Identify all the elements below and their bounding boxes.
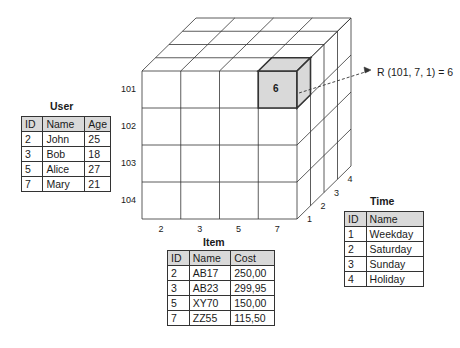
user-axis-label: 103	[121, 159, 136, 168]
table-row: 3Sunday	[345, 257, 424, 272]
table-cell: 21	[85, 177, 111, 192]
formula-label: R (101, 7, 1) = 6	[377, 66, 453, 78]
item-axis-label: 5	[236, 225, 241, 234]
table-row: 3AB23299,95	[168, 281, 275, 296]
user-axis-label: 102	[121, 122, 136, 131]
table-row: 5Alice27	[22, 162, 111, 177]
table-row: 5XY70150,00	[168, 296, 275, 311]
table-cell: Sunday	[366, 257, 423, 272]
table-cell: 5	[22, 162, 43, 177]
table-cell: 25	[85, 132, 111, 147]
table-cell: 150,00	[231, 296, 275, 311]
table-cell: 1	[345, 227, 367, 242]
time-axis-label: 4	[348, 175, 353, 184]
column-header: ID	[168, 251, 190, 266]
table-cell: 7	[22, 177, 43, 192]
table-row: 3Bob18	[22, 147, 111, 162]
table-cell: 27	[85, 162, 111, 177]
time-axis-label: 3	[334, 189, 339, 198]
column-header: Cost	[231, 251, 275, 266]
column-header: Name	[366, 212, 423, 227]
item-table: IDNameCost 2AB17250,003AB23299,955XY7015…	[167, 250, 275, 326]
table-cell: Alice	[43, 162, 85, 177]
column-header: Name	[43, 117, 85, 132]
time-table-title: Time	[370, 195, 394, 207]
table-cell: Bob	[43, 147, 85, 162]
table-cell: 7	[168, 311, 190, 326]
table-cell: Saturday	[366, 242, 423, 257]
table-cell: AB23	[189, 281, 231, 296]
table-cell: 4	[345, 272, 367, 287]
table-row: 2AB17250,00	[168, 266, 275, 281]
time-axis-label: 2	[321, 202, 326, 211]
table-cell: Mary	[43, 177, 85, 192]
table-row: 2John25	[22, 132, 111, 147]
item-axis-label: 3	[197, 225, 202, 234]
table-cell: 5	[168, 296, 190, 311]
table-row: 1Weekday	[345, 227, 424, 242]
table-cell: AB17	[189, 266, 231, 281]
item-axis-label: 7	[275, 225, 280, 234]
table-cell: 3	[168, 281, 190, 296]
user-table-title: User	[50, 100, 73, 112]
table-cell: 18	[85, 147, 111, 162]
column-header: ID	[345, 212, 367, 227]
table-cell: 3	[345, 257, 367, 272]
table-cell: 2	[168, 266, 190, 281]
table-row: 7Mary21	[22, 177, 111, 192]
table-header-row: IDNameCost	[168, 251, 275, 266]
table-header-row: IDNameAge	[22, 117, 111, 132]
table-cell: ZZ55	[189, 311, 231, 326]
table-cell: 3	[22, 147, 43, 162]
column-header: Name	[189, 251, 231, 266]
table-cell: XY70	[189, 296, 231, 311]
item-axis-label: 2	[158, 225, 163, 234]
table-row: 4Holiday	[345, 272, 424, 287]
table-cell: Holiday	[366, 272, 423, 287]
table-cell: Weekday	[366, 227, 423, 242]
table-row: 7ZZ55115,50	[168, 311, 275, 326]
column-header: Age	[85, 117, 111, 132]
table-cell: 2	[345, 242, 367, 257]
user-table: IDNameAge 2John253Bob185Alice277Mary21	[21, 116, 111, 192]
table-cell: 115,50	[231, 311, 275, 326]
user-axis-label: 101	[121, 85, 136, 94]
item-table-title: Item	[203, 236, 225, 248]
user-axis-label: 104	[121, 196, 136, 205]
table-cell: 299,95	[231, 281, 275, 296]
table-row: 2Saturday	[345, 242, 424, 257]
column-header: ID	[22, 117, 43, 132]
highlight-cell-value: 6	[273, 84, 279, 94]
time-table: IDName 1Weekday2Saturday3Sunday4Holiday	[344, 211, 424, 287]
table-cell: 250,00	[231, 266, 275, 281]
table-cell: 2	[22, 132, 43, 147]
time-axis-label: 1	[307, 215, 312, 224]
table-header-row: IDName	[345, 212, 424, 227]
table-cell: John	[43, 132, 85, 147]
